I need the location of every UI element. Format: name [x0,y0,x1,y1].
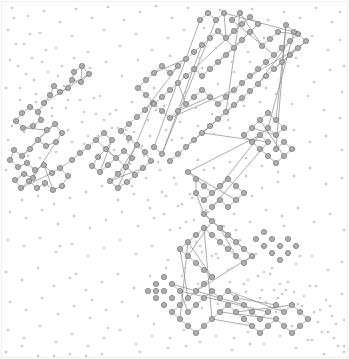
network-graph-canvas [0,0,349,359]
network-graph-figure [0,0,349,359]
